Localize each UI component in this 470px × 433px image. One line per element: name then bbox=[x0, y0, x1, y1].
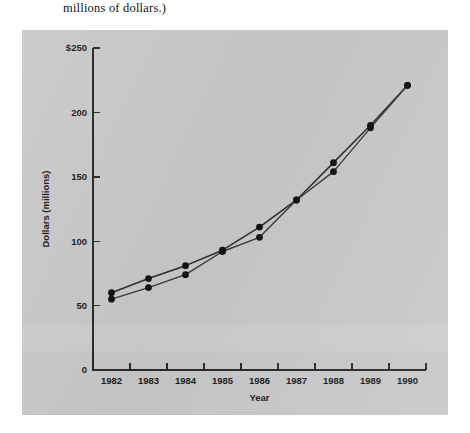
x-tick-label: 1990 bbox=[397, 375, 418, 386]
chart-axes bbox=[93, 48, 426, 370]
data-point bbox=[145, 284, 152, 291]
data-point bbox=[145, 275, 152, 282]
data-point bbox=[293, 197, 300, 204]
x-tick-label: 1985 bbox=[212, 375, 234, 386]
data-point bbox=[330, 168, 337, 175]
data-point bbox=[182, 262, 189, 269]
data-point bbox=[108, 296, 115, 303]
data-point bbox=[330, 159, 337, 166]
x-tick-label: 1989 bbox=[360, 375, 381, 386]
data-point bbox=[367, 124, 374, 131]
figure-caption: millions of dollars.) bbox=[63, 1, 166, 16]
chart-series bbox=[108, 82, 411, 303]
x-tick-label: 1984 bbox=[175, 375, 197, 386]
line-chart: 050100150200$250 19821983198419851986198… bbox=[22, 30, 448, 415]
x-tick-label: 1987 bbox=[286, 375, 307, 386]
x-tick-label: 1982 bbox=[101, 375, 122, 386]
x-axis-title: Year bbox=[249, 392, 269, 403]
y-tick-label: 50 bbox=[76, 300, 87, 311]
data-point bbox=[219, 248, 226, 255]
data-point bbox=[404, 82, 411, 89]
data-point bbox=[256, 224, 263, 231]
x-tick-label: 1988 bbox=[323, 375, 344, 386]
data-point bbox=[108, 289, 115, 296]
data-point bbox=[182, 271, 189, 278]
y-axis-title: Dollars (millions) bbox=[40, 170, 51, 247]
axis-lines bbox=[93, 48, 426, 370]
chart-axis-titles: YearDollars (millions) bbox=[40, 170, 270, 403]
y-tick-label: 0 bbox=[82, 364, 87, 375]
y-axis-ticks: 050100150200$250 bbox=[66, 42, 100, 375]
series-line-series-upper bbox=[112, 85, 408, 292]
y-tick-label: 100 bbox=[71, 236, 87, 247]
y-tick-label: 150 bbox=[71, 171, 87, 182]
y-tick-label: 200 bbox=[71, 107, 87, 118]
data-point bbox=[256, 234, 263, 241]
x-tick-label: 1986 bbox=[249, 375, 270, 386]
x-axis-ticks: 198219831984198519861987198819891990 bbox=[93, 363, 426, 386]
figure-panel: 050100150200$250 19821983198419851986198… bbox=[22, 30, 448, 415]
x-tick-label: 1983 bbox=[138, 375, 159, 386]
series-line-series-lower bbox=[112, 85, 408, 299]
y-tick-label: $250 bbox=[66, 42, 87, 53]
